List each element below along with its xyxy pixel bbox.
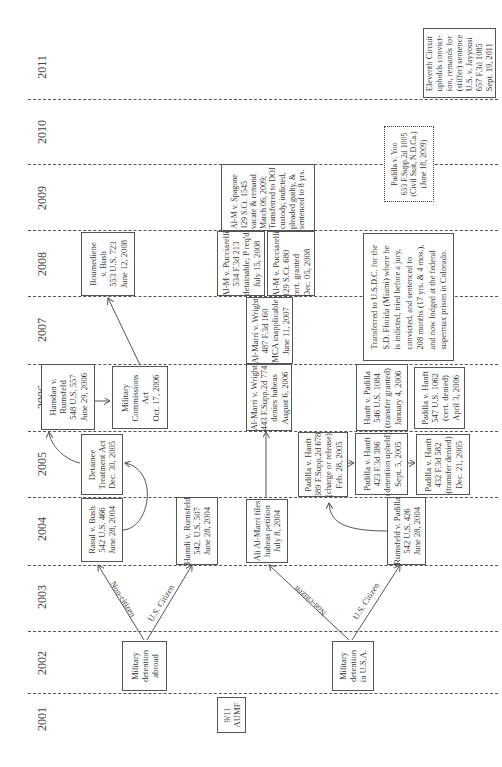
box-line: detention: [348, 650, 358, 682]
box-line: Al-M v. Spagone: [230, 167, 240, 229]
box-line: v. Bush: [98, 240, 108, 288]
box-line: Boumediene: [88, 240, 98, 288]
box-almarri-v-pucciarelli-july-2008: Al-M v. Pucciarelli534 F.3d 213detainabl…: [217, 231, 265, 296]
box-line: June 12, 2008: [118, 240, 128, 288]
box-line: 542 U.S. 426: [401, 497, 411, 564]
box-line: pleaded guilty, &: [287, 167, 297, 229]
box-line: AUMF: [232, 703, 242, 728]
box-line: Dec. 21, 2005: [453, 436, 463, 493]
box-line: Dec. 05, 2008: [301, 230, 311, 296]
box-line: Military: [120, 374, 130, 421]
box-line: Padilla v. Yoo: [390, 132, 400, 197]
box-line: April 3, 2006: [450, 371, 460, 425]
box-line: 423 F.3d 386: [371, 432, 381, 495]
box-line: June 28, 2004: [412, 497, 422, 564]
box-hamdan-v-rumsfeld: Hamdan v.Rumsfeld548 U.S. 557June 29, 20…: [41, 364, 95, 430]
box-line: Eleventh Circuit: [425, 35, 435, 91]
box-line: Treatment Act: [97, 440, 107, 489]
box-line: Military: [129, 650, 139, 682]
box-line: Sept. 19, 2011: [485, 35, 495, 91]
box-line: June 28, 2004: [107, 506, 117, 554]
box-line: (stiffer) sentence: [455, 35, 465, 91]
box-line: Al-Marri v. Wright: [249, 298, 259, 363]
box-line: 9/11: [221, 703, 231, 728]
box-line: detainable; P req'd: [241, 230, 251, 296]
box-transferred-usdc: Transferred to U.S.D.C. for theS.D. Flor…: [363, 233, 454, 361]
box-line: 547 U.S. 1062: [429, 371, 439, 425]
box-line: Padilla v. Hanft: [419, 371, 429, 425]
box-almarri-v-pucciarelli-dec-2008: Al-M v. Pucciarelli129 S.Ct. 680cert. gr…: [267, 231, 315, 296]
box-rumsfeld-v-padilla: Rumsfeld v. Padilla542 U.S. 426June 28, …: [387, 497, 426, 565]
box-line: Feb. 28, 2005: [333, 432, 343, 497]
box-line: 542 U.S. 466: [97, 506, 107, 554]
box-line: (detention upheld): [382, 432, 392, 495]
box-line: 208 months (17 yrs. & 4 mos.),: [414, 245, 426, 350]
box-line: July 15, 2008: [251, 230, 261, 296]
box-line: Rumsfeld v. Padilla: [391, 497, 401, 564]
box-line: June 29, 2006: [78, 373, 88, 421]
box-line: 443 F.Supp.2d 774: [259, 365, 269, 430]
box-line: upholds convict-: [435, 35, 445, 91]
box-line: Hamdan v.: [48, 373, 58, 421]
box-line: 487 F.3d 160: [259, 298, 269, 363]
box-line: denies habeas: [269, 365, 279, 430]
box-line: habeas petition: [262, 501, 272, 562]
box-line: sentenced to 8 yrs.: [297, 167, 307, 229]
box-line: Act: [140, 374, 150, 421]
box-line: Rumsfeld: [58, 373, 68, 421]
box-hanft-v-padilla-2006: Hanft v. Padilla546 U.S. 1084(transfer g…: [356, 364, 408, 431]
box-hamdi-v-rumsfeld: Hamdi v. Rumsfeld542. U.S. 507June 28, 2…: [176, 497, 218, 565]
box-line: (cert. denied): [440, 371, 450, 425]
box-line: Military: [338, 650, 348, 682]
box-line: U.S. v. Jayyousi: [465, 35, 475, 91]
box-line: vacate & remand: [249, 167, 259, 229]
box-line: Al-Marri v. Wright: [249, 365, 259, 430]
box-line: Transferred to U.S.D.C. for the: [368, 245, 380, 350]
box-line: Hamdi v. Rumsfeld: [182, 498, 192, 565]
box-line: 633 F.Supp.2d 1005: [400, 132, 410, 197]
box-line: March 06, 2009;: [258, 167, 268, 229]
box-line: June 11, 2007: [280, 298, 290, 363]
box-line: Padilla v. Hanft: [303, 432, 313, 497]
box-line: Padilla v. Hanft: [423, 436, 433, 493]
box-padilla-v-hanft-2006: Padilla v. Hanft547 U.S. 1062(cert. deni…: [414, 367, 465, 429]
box-line: June 28, 2004: [202, 498, 212, 565]
box-line: Dec. 30, 2005: [107, 440, 117, 489]
box-almarri-v-spagone: Al-M v. Spagone129 S.Ct. 1545vacate & re…: [221, 164, 315, 231]
box-line: Al-M v. Pucciarelli: [221, 230, 231, 296]
box-line: supermax prison in Colorado.: [437, 245, 449, 350]
box-line: 542. U.S. 507: [192, 498, 202, 565]
box-detention-abroad: Militarydetentionabroad: [122, 641, 167, 691]
box-almarri-v-wright-2006: Al-Marri v. Wright443 F.Supp.2d 774denie…: [246, 364, 292, 431]
box-line: Oct. 17, 2006: [150, 374, 160, 421]
box-line: 389 F.Supp.2d 678: [313, 432, 323, 497]
box-line: January 4, 2006: [392, 368, 402, 428]
box-line: (charge or release): [323, 432, 333, 497]
box-almarri-files-habeas: Ali Al-Marri fileshabeas petitionJuly 8,…: [246, 499, 288, 563]
box-line: 548 U.S. 557: [68, 373, 78, 421]
box-line: (Civil Suit, N.D.Ca.): [409, 132, 419, 197]
box-line: detention: [139, 650, 149, 682]
box-line: Al-M v. Pucciarelli: [271, 230, 281, 296]
box-line: August 6, 2006: [279, 365, 289, 430]
box-padilla-v-hanft-dec-2005: Padilla v. Hanft432 F.3d 582(transfer de…: [416, 434, 470, 495]
box-line: 534 F.3d 213: [231, 230, 241, 296]
box-line: Detainee: [87, 440, 97, 489]
box-padilla-v-hanft-feb-2005: Padilla v. Hanft389 F.Supp.2d 678(charge…: [298, 432, 348, 497]
box-line: abroad: [150, 650, 160, 682]
box-line: (transfer granted): [382, 368, 392, 428]
box-line: 129 S.Ct. 680: [281, 230, 291, 296]
box-line: custody, indicted,: [278, 167, 288, 229]
box-almarri-v-wright-2007: Al-Marri v. Wright487 F.3d 160MCA inappl…: [246, 297, 293, 364]
box-padilla-v-yoo: Padilla v. Yoo633 F.Supp.2d 1005(Civil S…: [384, 126, 434, 202]
box-line: is indicted, tried before a jury,: [391, 245, 403, 350]
box-line: July 8, 2004: [272, 501, 282, 562]
box-line: S.D. Florida (Miami) where he: [380, 245, 392, 350]
box-boumediene-v-bush: Boumedienev. Bush553 U.S. 723June 12, 20…: [81, 232, 135, 296]
box-line: 546 U.S. 1084: [372, 368, 382, 428]
box-line: convicted, and sentenced to: [403, 245, 415, 350]
box-line: 432 F.3d 582: [433, 436, 443, 493]
box-line: Commissions: [130, 374, 140, 421]
box-detention-usa: Militarydetentionin U.S.A.: [332, 641, 374, 691]
box-line: ion, remands for: [445, 35, 455, 91]
